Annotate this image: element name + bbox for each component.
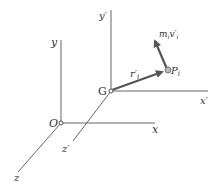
centroidal-axes: [73, 10, 208, 141]
z-axis: [18, 123, 61, 172]
momentum-label: miv′i: [159, 29, 179, 40]
center-of-mass-point: [109, 89, 113, 93]
z-axis-label: z: [13, 172, 20, 183]
position-vector-label: r′i: [130, 68, 139, 81]
x-axis-label: x: [152, 123, 159, 136]
momentum-vector-arrow: [155, 41, 167, 69]
z-prime-label: z′: [61, 143, 70, 154]
origin-label: O: [49, 117, 58, 130]
kinetics-diagram: y x z O y′ x′ z′ G r′i Pi miv′i: [0, 0, 221, 188]
particle-label: Pi: [170, 65, 180, 78]
y-prime-label: y′: [98, 10, 108, 21]
center-label: G: [98, 85, 107, 98]
y-axis-label: y: [50, 36, 58, 49]
x-prime-label: x′: [200, 95, 209, 106]
fixed-axes: [18, 40, 155, 172]
origin-point: [59, 121, 63, 125]
z-prime-axis: [73, 91, 111, 141]
